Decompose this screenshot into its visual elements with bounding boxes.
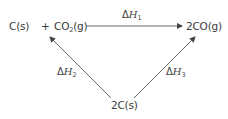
h-symbol: H	[64, 66, 73, 77]
product-co: 2CO(g)	[186, 20, 222, 32]
delta-h1-label: ΔH1	[122, 9, 142, 24]
h-sub: 1	[138, 14, 142, 22]
h-sub: 3	[182, 71, 186, 79]
co2-main: CO	[54, 20, 69, 32]
intermediate-text: 2C(s)	[111, 99, 138, 111]
plus-text: +	[41, 20, 50, 32]
delta-symbol: Δ	[166, 66, 173, 77]
h-sub: 2	[73, 71, 77, 79]
delta-h3-label: ΔH3	[166, 66, 186, 81]
delta-symbol: Δ	[122, 9, 129, 20]
reactant-carbon: C(s)	[9, 20, 29, 32]
intermediate-carbon: 2C(s)	[111, 99, 138, 111]
plus-sign: +	[41, 20, 50, 32]
arrow-right	[134, 37, 195, 98]
h-symbol: H	[129, 9, 138, 20]
product-text: 2CO(g)	[186, 20, 222, 32]
h-symbol: H	[173, 66, 182, 77]
delta-h2-label: ΔH2	[57, 66, 77, 81]
reactant-co2: CO2(g)	[54, 20, 87, 36]
co2-state: (g)	[73, 20, 87, 32]
delta-symbol: Δ	[57, 66, 64, 77]
reactant-carbon-text: C(s)	[9, 20, 29, 32]
